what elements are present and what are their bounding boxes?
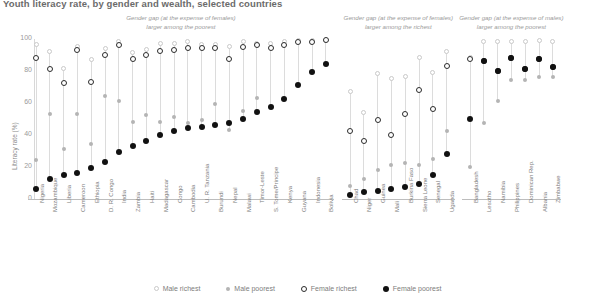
point-female-poorest[interactable] [522,66,528,72]
point-female-poorest[interactable] [254,109,260,115]
point-female-poorest[interactable] [388,186,394,192]
point-male-richest[interactable] [158,41,163,46]
point-male-poorest[interactable] [103,94,107,98]
point-male-poorest[interactable] [482,121,486,125]
point-male-poorest[interactable] [62,147,66,151]
point-female-richest[interactable] [74,47,80,53]
point-female-poorest[interactable] [240,116,246,122]
point-female-poorest[interactable] [536,56,542,62]
point-female-poorest[interactable] [495,68,501,74]
point-male-poorest[interactable] [213,102,217,106]
point-female-richest[interactable] [323,37,329,43]
point-male-poorest[interactable] [403,161,407,165]
point-female-richest[interactable] [33,55,39,61]
point-female-poorest[interactable] [61,172,67,178]
point-male-poorest[interactable] [34,158,38,162]
point-male-richest[interactable] [34,42,39,47]
point-male-richest[interactable] [103,46,108,51]
point-female-richest[interactable] [467,56,473,62]
point-female-poorest[interactable] [550,64,556,70]
point-male-poorest[interactable] [445,129,449,133]
point-male-poorest[interactable] [551,75,555,79]
point-female-richest[interactable] [254,42,260,48]
point-female-richest[interactable] [226,56,232,62]
legend-item-male-richest[interactable]: Male richest [154,285,201,292]
point-male-richest[interactable] [185,39,190,44]
point-female-richest[interactable] [47,66,53,72]
point-female-richest[interactable] [130,56,136,62]
point-female-richest[interactable] [212,45,218,51]
point-male-poorest[interactable] [348,184,352,188]
point-female-poorest[interactable] [295,82,301,88]
point-female-richest[interactable] [361,138,367,144]
point-male-poorest[interactable] [376,168,380,172]
point-male-poorest[interactable] [255,96,259,100]
point-female-richest[interactable] [388,132,394,138]
point-female-poorest[interactable] [157,132,163,138]
point-female-richest[interactable] [185,45,191,51]
point-male-richest[interactable] [403,74,408,79]
point-male-richest[interactable] [361,110,366,115]
point-male-richest[interactable] [430,70,435,75]
point-female-richest[interactable] [444,63,450,69]
point-female-poorest[interactable] [102,159,108,165]
point-female-richest[interactable] [199,45,205,51]
point-male-richest[interactable] [537,38,542,43]
point-female-richest[interactable] [240,44,246,50]
point-male-poorest[interactable] [117,99,121,103]
point-female-poorest[interactable] [444,151,450,157]
point-female-richest[interactable] [402,111,408,117]
point-female-richest[interactable] [116,42,122,48]
point-male-poorest[interactable] [509,78,513,82]
point-male-poorest[interactable] [75,112,79,116]
point-male-richest[interactable] [375,71,380,76]
point-female-richest[interactable] [347,128,353,134]
point-male-poorest[interactable] [431,157,435,161]
point-male-poorest[interactable] [362,177,366,181]
point-female-richest[interactable] [281,42,287,48]
point-male-richest[interactable] [227,44,232,49]
point-female-poorest[interactable] [88,165,94,171]
point-male-poorest[interactable] [241,109,245,113]
point-female-poorest[interactable] [281,96,287,102]
point-male-poorest[interactable] [523,78,527,82]
point-female-poorest[interactable] [481,58,487,64]
point-female-richest[interactable] [61,80,67,86]
point-male-richest[interactable] [348,89,353,94]
point-female-poorest[interactable] [212,122,218,128]
point-male-richest[interactable] [417,55,422,60]
point-female-poorest[interactable] [143,138,149,144]
point-male-poorest[interactable] [468,165,472,169]
point-male-richest[interactable] [495,39,500,44]
point-male-poorest[interactable] [48,112,52,116]
point-female-richest[interactable] [295,39,301,45]
point-female-poorest[interactable] [467,116,473,122]
point-male-poorest[interactable] [537,75,541,79]
point-female-poorest[interactable] [309,69,315,75]
point-male-richest[interactable] [550,39,555,44]
point-male-richest[interactable] [47,49,52,54]
point-female-poorest[interactable] [185,125,191,131]
point-female-richest[interactable] [143,52,149,58]
point-male-richest[interactable] [389,76,394,81]
point-male-poorest[interactable] [227,128,231,132]
point-female-richest[interactable] [268,45,274,51]
point-male-poorest[interactable] [200,118,204,122]
point-male-poorest[interactable] [144,113,148,117]
point-male-poorest[interactable] [417,163,421,167]
point-male-poorest[interactable] [89,142,93,146]
point-female-poorest[interactable] [430,172,436,178]
point-female-richest[interactable] [430,106,436,112]
point-female-poorest[interactable] [74,170,80,176]
point-male-poorest[interactable] [496,99,500,103]
point-female-richest[interactable] [88,79,94,85]
point-male-poorest[interactable] [158,120,162,124]
point-male-richest[interactable] [444,49,449,54]
point-male-poorest[interactable] [172,115,176,119]
point-female-richest[interactable] [102,52,108,58]
point-female-richest[interactable] [309,39,315,45]
point-female-poorest[interactable] [116,149,122,155]
legend-item-female-richest[interactable]: Female richest [301,285,357,292]
point-male-richest[interactable] [130,50,135,55]
point-female-poorest[interactable] [171,128,177,134]
